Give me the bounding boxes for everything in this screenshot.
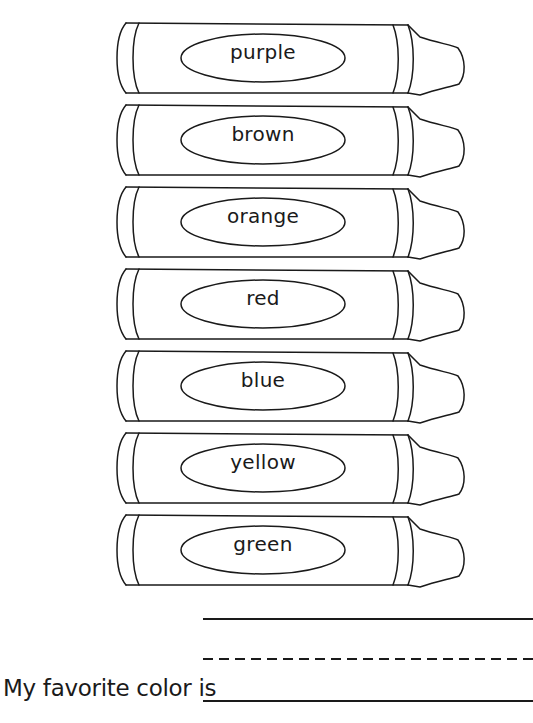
- crayon-label: blue: [182, 358, 344, 402]
- handwriting-midline: [203, 658, 533, 660]
- crayon-label: brown: [182, 112, 344, 156]
- handwriting-top-line: [203, 618, 533, 620]
- handwriting-baseline[interactable]: [203, 700, 533, 702]
- crayon-green[interactable]: green: [110, 507, 470, 587]
- crayon-label: red: [182, 276, 344, 320]
- crayon-blue[interactable]: blue: [110, 343, 470, 423]
- handwriting-area[interactable]: My favorite color is: [0, 600, 533, 723]
- crayon-yellow[interactable]: yellow: [110, 425, 470, 505]
- crayon-label: green: [182, 522, 344, 566]
- crayon-purple[interactable]: purple: [110, 15, 470, 95]
- crayon-label: purple: [182, 30, 344, 74]
- crayon-brown[interactable]: brown: [110, 97, 470, 177]
- favorite-color-prompt: My favorite color is: [3, 675, 216, 701]
- crayon-label: orange: [182, 194, 344, 238]
- crayon-red[interactable]: red: [110, 261, 470, 341]
- crayon-label: yellow: [182, 440, 344, 484]
- crayon-orange[interactable]: orange: [110, 179, 470, 259]
